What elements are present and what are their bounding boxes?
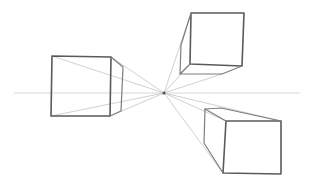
top-right-box (180, 13, 244, 74)
vanishing-point (162, 91, 165, 94)
perspective-sketch (0, 0, 312, 188)
left-box (51, 56, 123, 116)
bottom-right-box (204, 108, 281, 174)
